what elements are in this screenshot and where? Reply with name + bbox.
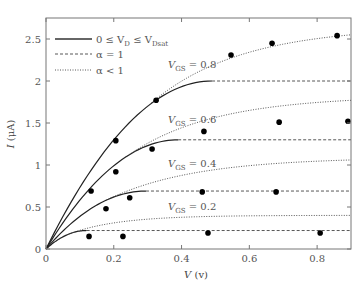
series-vgs-0.6: VGS = 0.6: [46, 100, 351, 249]
x-tick-label: 0.2: [106, 253, 122, 264]
vgs-label: VGS = 0.6: [168, 114, 216, 128]
measured-data-point: [113, 138, 119, 144]
plot-frame: [46, 18, 351, 249]
measured-data-point: [149, 146, 155, 152]
vgs-label: VGS = 0.8: [168, 59, 216, 73]
x-tick-label: 0.6: [241, 253, 257, 264]
measured-data-point: [228, 52, 234, 58]
legend-solid-label: 0 ≤ VD ≤ VDsat: [96, 34, 168, 48]
measured-data-point: [103, 206, 109, 212]
solid-curve: [46, 140, 178, 249]
x-axis-title: V (v): [184, 269, 208, 280]
y-tick-label: 2: [35, 76, 41, 87]
legend-dashed-label: α = 1: [96, 49, 124, 60]
y-tick-label: 2.5: [25, 34, 41, 45]
measured-data-point: [201, 129, 207, 135]
legend-dotted-label: α < 1: [96, 65, 124, 76]
legend: 0 ≤ VD ≤ VDsat α = 1 α < 1: [55, 34, 168, 76]
axes: 00.20.40.60.800.511.522.5: [25, 18, 351, 264]
measured-data-point: [199, 189, 205, 195]
series-vgs-0.8: VGS = 0.8: [46, 35, 351, 249]
x-tick-label: 0.8: [309, 253, 325, 264]
measured-data-point: [273, 189, 279, 195]
measured-data-point: [269, 40, 275, 46]
measured-data-point: [153, 98, 159, 104]
measured-data-point: [86, 234, 92, 240]
vgs-label: VGS = 0.4: [168, 158, 216, 172]
measured-data-point: [317, 230, 323, 236]
y-tick-label: 0.5: [25, 202, 41, 213]
iv-characteristics-chart: VGS = 0.8VGS = 0.6VGS = 0.4VGS = 0.2 00.…: [0, 0, 362, 290]
x-tick-label: 0: [43, 253, 49, 264]
curves-layer: VGS = 0.8VGS = 0.6VGS = 0.4VGS = 0.2: [46, 35, 351, 249]
y-axis-title: I (μA): [5, 120, 16, 150]
y-tick-label: 1.5: [25, 118, 41, 129]
x-tick-label: 0.4: [174, 253, 190, 264]
dotted-curve: [125, 100, 351, 157]
data-points-layer: [86, 33, 351, 239]
vgs-label: VGS = 0.2: [168, 201, 216, 215]
dotted-curve: [106, 160, 351, 200]
measured-data-point: [205, 230, 211, 236]
y-tick-label: 1: [35, 160, 41, 171]
measured-data-point: [120, 234, 126, 240]
measured-data-point: [334, 33, 340, 39]
measured-data-point: [88, 188, 94, 194]
measured-data-point: [127, 195, 133, 201]
y-tick-label: 0: [35, 244, 41, 255]
measured-data-point: [113, 169, 119, 175]
measured-data-point: [276, 119, 282, 125]
